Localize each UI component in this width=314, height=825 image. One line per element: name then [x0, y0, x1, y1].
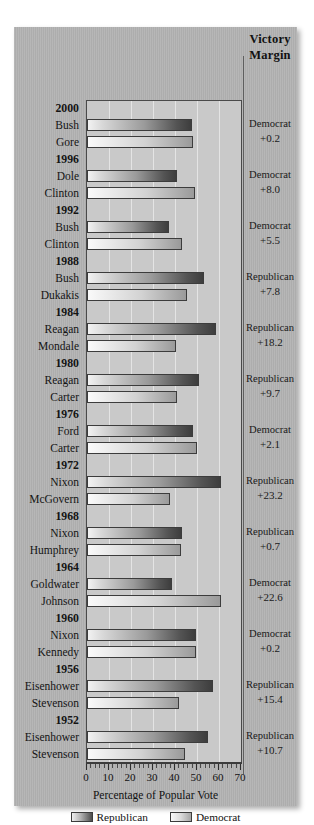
victory-margin-entry: Democrat+8.0	[243, 167, 297, 197]
vote-bar-dem	[87, 136, 193, 148]
election-year-label: 1952	[0, 712, 79, 729]
victory-margin-title: Victory Margin	[243, 31, 297, 63]
chart-card: Victory Margin 2000BushGoreDemocrat+0.21…	[14, 27, 297, 806]
victory-margin-value: +5.5	[243, 233, 297, 248]
legend-item: Democrat	[170, 811, 241, 823]
candidate-name-label: Stevenson	[0, 746, 79, 763]
election-year-row: 1956	[14, 661, 297, 678]
candidate-name-label: Carter	[0, 389, 79, 406]
x-axis-minor-tick	[117, 764, 118, 768]
election-year-label: 1984	[0, 304, 79, 321]
candidate-name-label: Reagan	[0, 321, 79, 338]
legend-label: Democrat	[196, 811, 241, 823]
x-axis-minor-tick	[205, 764, 206, 768]
candidate-name-label: Dukakis	[0, 287, 79, 304]
victory-margin-entry: Republican+15.4	[243, 677, 297, 707]
x-axis-minor-tick	[231, 764, 232, 768]
candidate-name-label: Eisenhower	[0, 729, 79, 746]
x-axis-tick-label: 70	[228, 771, 252, 783]
winning-party-label: Democrat	[243, 218, 297, 233]
election-year-row: 1996	[14, 151, 297, 168]
candidate-name-label: Gore	[0, 134, 79, 151]
vote-bar-dem	[87, 748, 185, 760]
x-axis-major-tick	[240, 764, 241, 770]
victory-margin-entry: Republican+23.2	[243, 473, 297, 503]
x-axis-minor-tick	[170, 764, 171, 768]
legend-item: Republican	[71, 811, 148, 823]
winning-party-label: Republican	[243, 728, 297, 743]
victory-margin-entry: Republican+18.2	[243, 320, 297, 350]
x-axis-tick-label: 0	[74, 771, 98, 783]
election-year-label: 2000	[0, 100, 79, 117]
vote-bar-rep	[87, 527, 182, 539]
x-axis-major-tick	[196, 764, 197, 770]
vote-bar-rep	[87, 221, 169, 233]
legend-swatch-rep	[71, 812, 93, 822]
victory-margin-value: +8.0	[243, 182, 297, 197]
x-axis-minor-tick	[99, 764, 100, 768]
x-axis-minor-tick	[200, 764, 201, 768]
victory-margin-entry: Republican+10.7	[243, 728, 297, 758]
vote-bar-rep	[87, 425, 193, 437]
vote-bar-rep	[87, 680, 213, 692]
candidate-name-label: Dole	[0, 168, 79, 185]
election-year-row: 1964	[14, 559, 297, 576]
vote-bar-rep	[87, 119, 192, 131]
victory-margin-entry: Democrat+22.6	[243, 575, 297, 605]
x-axis-minor-tick	[227, 764, 228, 768]
candidate-name-label: Carter	[0, 440, 79, 457]
x-axis-major-tick	[86, 764, 87, 770]
candidate-name-label: Nixon	[0, 627, 79, 644]
election-year-label: 1992	[0, 202, 79, 219]
x-axis-minor-tick	[148, 764, 149, 768]
candidate-name-label: Bush	[0, 219, 79, 236]
election-year-row: 1976	[14, 406, 297, 423]
victory-margin-value: +10.7	[243, 743, 297, 758]
x-axis-minor-tick	[139, 764, 140, 768]
election-year-label: 1988	[0, 253, 79, 270]
vote-bar-dem	[87, 289, 187, 301]
election-year-label: 1980	[0, 355, 79, 372]
x-axis-minor-tick	[192, 764, 193, 768]
legend: RepublicanDemocrat	[48, 809, 263, 825]
vote-bar-dem	[87, 697, 179, 709]
candidate-name-label: Ford	[0, 423, 79, 440]
victory-margin-entry: Democrat+0.2	[243, 626, 297, 656]
victory-margin-value: +0.2	[243, 131, 297, 146]
victory-margin-value: +18.2	[243, 335, 297, 350]
vote-bar-rep	[87, 731, 208, 743]
x-axis-major-tick	[152, 764, 153, 770]
vote-bar-dem	[87, 544, 181, 556]
x-axis-title: Percentage of Popular Vote	[48, 789, 263, 801]
vote-bar-rep	[87, 374, 199, 386]
x-axis-minor-tick	[112, 764, 113, 768]
victory-margin-entry: Democrat+2.1	[243, 422, 297, 452]
winning-party-label: Democrat	[243, 422, 297, 437]
x-axis-minor-tick	[90, 764, 91, 768]
x-axis-minor-tick	[236, 764, 237, 768]
candidate-name-label: Humphrey	[0, 542, 79, 559]
winning-party-label: Democrat	[243, 116, 297, 131]
x-axis-minor-tick	[165, 764, 166, 768]
candidate-name-label: Johnson	[0, 593, 79, 610]
candidate-name-label: Nixon	[0, 525, 79, 542]
victory-margin-title-line2: Margin	[249, 48, 290, 62]
x-axis-minor-tick	[209, 764, 210, 768]
victory-margin-value: +23.2	[243, 488, 297, 503]
x-axis-minor-tick	[214, 764, 215, 768]
x-axis-minor-tick	[183, 764, 184, 768]
x-axis-minor-tick	[95, 764, 96, 768]
candidate-name-label: Goldwater	[0, 576, 79, 593]
candidate-name-label: Mondale	[0, 338, 79, 355]
x-axis-minor-tick	[121, 764, 122, 768]
candidate-name-label: McGovern	[0, 491, 79, 508]
x-axis-tick-label: 30	[140, 771, 164, 783]
vote-bar-dem	[87, 493, 170, 505]
winning-party-label: Republican	[243, 371, 297, 386]
x-axis-major-tick	[174, 764, 175, 770]
election-year-label: 1960	[0, 610, 79, 627]
victory-margin-entry: Democrat+5.5	[243, 218, 297, 248]
election-year-row: 1980	[14, 355, 297, 372]
candidate-name-label: Stevenson	[0, 695, 79, 712]
victory-margin-title-line1: Victory	[249, 32, 290, 46]
